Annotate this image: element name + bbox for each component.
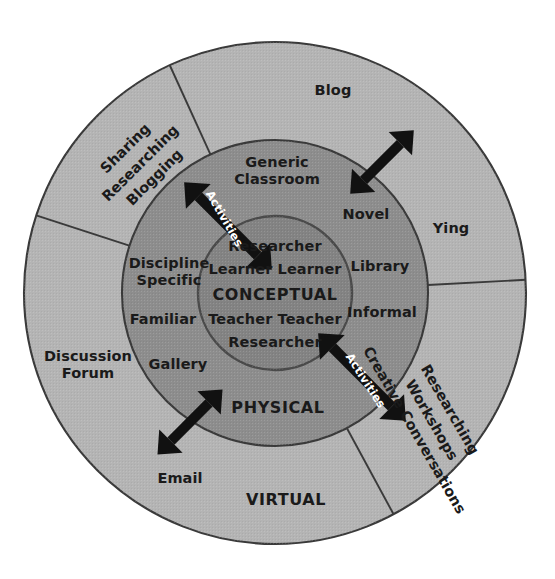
diagram-canvas [0, 0, 555, 579]
diagram-root: Researcher Learner Learner CONCEPTUAL Te… [0, 0, 555, 579]
